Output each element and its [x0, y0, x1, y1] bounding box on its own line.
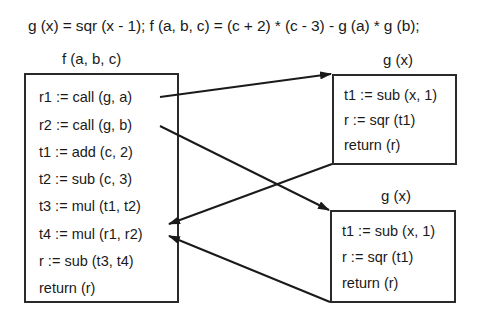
arrow-call-g-a: [160, 74, 331, 97]
call-return-arrows: [0, 0, 478, 320]
arrow-return-g-bottom: [169, 236, 330, 302]
arrow-call-g-b: [160, 126, 329, 210]
arrow-return-g-top: [169, 164, 332, 224]
